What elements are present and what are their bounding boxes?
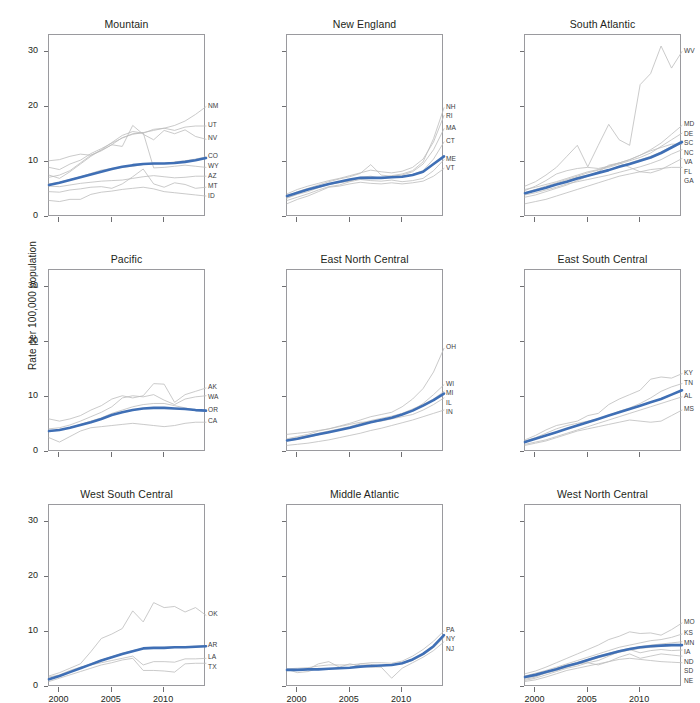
y-tick-label: 10 <box>16 155 38 165</box>
x-tick-label: 2005 <box>571 694 603 703</box>
x-tick-mark <box>58 452 59 457</box>
state-label-ri: RI <box>446 112 453 119</box>
y-tick-label: 30 <box>16 280 38 290</box>
state-label-ga: GA <box>684 177 694 184</box>
panel-pacific: Pacific0102030AKWAORCA <box>14 253 231 473</box>
x-tick-mark <box>58 687 59 692</box>
y-tick-label: 20 <box>16 100 38 110</box>
state-label-ne: NE <box>684 677 693 684</box>
y-tick-mark <box>520 451 524 452</box>
state-line-wi <box>287 385 444 441</box>
state-label-nc: NC <box>684 149 694 156</box>
x-tick-mark <box>111 217 112 222</box>
x-tick-mark <box>534 452 535 457</box>
x-tick-mark <box>58 217 59 222</box>
panel-title: New England <box>286 18 443 30</box>
x-tick-label: 2010 <box>147 694 179 703</box>
x-tick-mark <box>401 452 402 457</box>
y-tick-mark <box>44 51 48 52</box>
state-label-ma: MA <box>446 124 456 131</box>
y-tick-mark <box>282 286 286 287</box>
y-tick-label: 30 <box>16 515 38 525</box>
state-label-wv: WV <box>684 47 695 54</box>
state-line-in <box>287 410 444 445</box>
y-tick-label: 30 <box>16 45 38 55</box>
panel-title: East South Central <box>524 253 681 265</box>
panel-west-south-central: West South Central0102030200020052010OKA… <box>14 488 231 703</box>
state-line-oh <box>287 348 444 438</box>
y-tick-label: 10 <box>16 390 38 400</box>
state-label-wy: WY <box>208 162 219 169</box>
x-tick-label: 2010 <box>385 694 417 703</box>
x-tick-mark <box>639 687 640 692</box>
state-label-il: IL <box>446 399 452 406</box>
y-tick-mark <box>520 686 524 687</box>
plot-area <box>48 34 205 216</box>
series-canvas <box>525 505 682 687</box>
y-tick-mark <box>282 161 286 162</box>
series-canvas <box>287 35 444 217</box>
state-label-ia: IA <box>684 648 690 655</box>
plot-area <box>286 34 443 216</box>
y-tick-mark <box>282 341 286 342</box>
state-label-nd: ND <box>684 658 694 665</box>
state-label-wa: WA <box>208 393 219 400</box>
y-tick-mark <box>282 51 286 52</box>
y-tick-mark <box>44 576 48 577</box>
series-canvas <box>525 270 682 452</box>
y-tick-mark <box>282 521 286 522</box>
state-label-oh: OH <box>446 343 456 350</box>
y-tick-mark <box>44 686 48 687</box>
state-label-vt: VT <box>446 164 455 171</box>
state-label-ct: CT <box>446 137 455 144</box>
state-label-ut: UT <box>208 121 217 128</box>
state-line-ak <box>49 384 206 422</box>
state-label-sc: SC <box>684 139 693 146</box>
state-label-nj: NJ <box>446 645 454 652</box>
y-tick-label: 0 <box>16 445 38 455</box>
state-label-me: ME <box>446 155 456 162</box>
region-average-line <box>525 390 682 442</box>
panel-middle-atlantic: Middle Atlantic200020052010PANYNJ <box>252 488 469 703</box>
state-line-wv <box>525 46 682 186</box>
state-label-tx: TX <box>208 663 217 670</box>
y-tick-mark <box>520 161 524 162</box>
y-tick-mark <box>282 106 286 107</box>
plot-area <box>48 269 205 451</box>
state-label-id: ID <box>208 192 215 199</box>
state-label-mo: MO <box>684 618 695 625</box>
x-tick-mark <box>639 217 640 222</box>
series-canvas <box>287 270 444 452</box>
state-line-nh <box>287 108 444 198</box>
y-tick-mark <box>520 396 524 397</box>
y-tick-mark <box>520 576 524 577</box>
panel-title: South Atlantic <box>524 18 681 30</box>
y-tick-mark <box>282 686 286 687</box>
y-tick-mark <box>44 631 48 632</box>
x-tick-mark <box>296 687 297 692</box>
state-label-mn: MN <box>684 639 694 646</box>
x-tick-mark <box>534 687 535 692</box>
plot-area <box>524 34 681 216</box>
y-tick-label: 10 <box>16 625 38 635</box>
y-tick-mark <box>44 341 48 342</box>
panel-title: Pacific <box>48 253 205 265</box>
panel-title: East North Central <box>286 253 443 265</box>
x-tick-label: 2000 <box>280 694 312 703</box>
state-label-va: VA <box>684 158 693 165</box>
panel-title: Mountain <box>48 18 205 30</box>
x-tick-mark <box>349 217 350 222</box>
state-label-de: DE <box>684 130 693 137</box>
series-canvas <box>49 505 206 687</box>
panel-title: Middle Atlantic <box>286 488 443 500</box>
state-label-ms: MS <box>684 405 694 412</box>
y-tick-mark <box>520 216 524 217</box>
state-line-ma <box>287 129 444 197</box>
plot-area <box>524 269 681 451</box>
panel-new-england: New EnglandNHRIMACTMEVT <box>252 18 469 238</box>
state-label-md: MD <box>684 120 694 127</box>
x-tick-mark <box>534 217 535 222</box>
region-average-line <box>49 408 206 431</box>
y-tick-label: 0 <box>16 680 38 690</box>
